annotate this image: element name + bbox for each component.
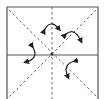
center-point-icon [51, 53, 54, 56]
fold-arrow-top-right-icon [65, 32, 81, 41]
origami-diagram [0, 0, 104, 99]
fold-arrow-left-icon [26, 46, 35, 62]
diagram-canvas [0, 0, 104, 99]
